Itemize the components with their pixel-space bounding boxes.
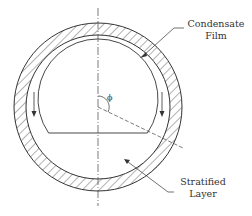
- angle-phi-label: ϕ: [107, 93, 112, 102]
- stratified-layer-label-line2: Layer: [176, 188, 230, 200]
- stratified-layer-label: Stratified Layer: [176, 176, 230, 200]
- stratified-layer-label-line1: Stratified: [176, 176, 230, 188]
- condensate-film-label-line2: Film: [186, 30, 246, 42]
- condensate-film-label-line1: Condensate: [186, 18, 246, 30]
- condensate-film-label: Condensate Film: [186, 18, 246, 42]
